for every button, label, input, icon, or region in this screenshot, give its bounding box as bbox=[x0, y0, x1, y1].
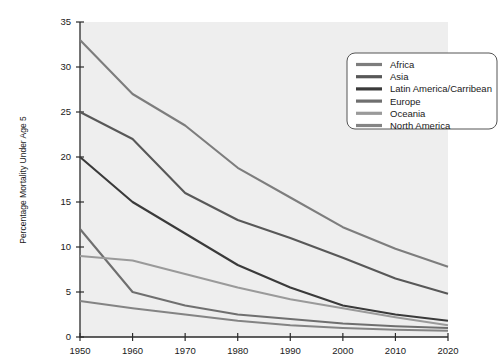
chart-legend: AfricaAsiaLatin America/CarribeanEuropeO… bbox=[347, 53, 497, 131]
y-tick-label: 5 bbox=[66, 286, 71, 297]
legend-label-africa: Africa bbox=[390, 59, 415, 70]
legend-label-oceania: Oceania bbox=[390, 108, 426, 119]
mortality-line-chart: 05101520253035 1950196019701980199020002… bbox=[0, 0, 504, 364]
x-tick-label: 1990 bbox=[280, 345, 301, 356]
x-tick-label: 1970 bbox=[175, 345, 196, 356]
legend-label-asia: Asia bbox=[390, 71, 409, 82]
legend-label-europe: Europe bbox=[390, 96, 421, 107]
x-tick-label: 2010 bbox=[385, 345, 406, 356]
y-tick-label: 35 bbox=[60, 16, 71, 27]
y-tick-label: 10 bbox=[60, 241, 71, 252]
legend-label-latin-america-carribean: Latin America/Carribean bbox=[390, 83, 492, 94]
x-tick-label: 1960 bbox=[122, 345, 143, 356]
y-tick-label: 25 bbox=[60, 106, 71, 117]
y-tick-label: 20 bbox=[60, 151, 71, 162]
x-tick-label: 1950 bbox=[69, 345, 90, 356]
y-tick-label: 15 bbox=[60, 196, 71, 207]
x-tick-label: 1980 bbox=[227, 345, 248, 356]
legend-label-north-america: North America bbox=[390, 120, 451, 131]
y-tick-label: 0 bbox=[66, 331, 71, 342]
y-tick-label: 30 bbox=[60, 61, 71, 72]
chart-canvas: 05101520253035 1950196019701980199020002… bbox=[0, 0, 504, 364]
x-tick-label: 2020 bbox=[437, 345, 458, 356]
y-axis-title: Percentage Mortality Under Age 5 bbox=[18, 116, 28, 244]
x-tick-label: 2000 bbox=[332, 345, 353, 356]
